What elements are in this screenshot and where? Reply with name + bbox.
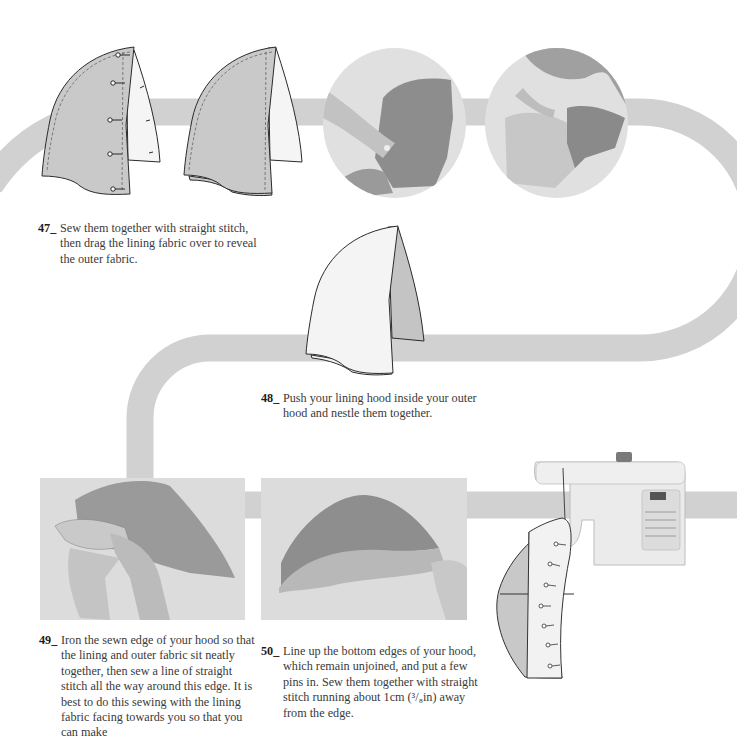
thread-spool-icon	[616, 452, 632, 462]
display-screen	[650, 492, 666, 500]
